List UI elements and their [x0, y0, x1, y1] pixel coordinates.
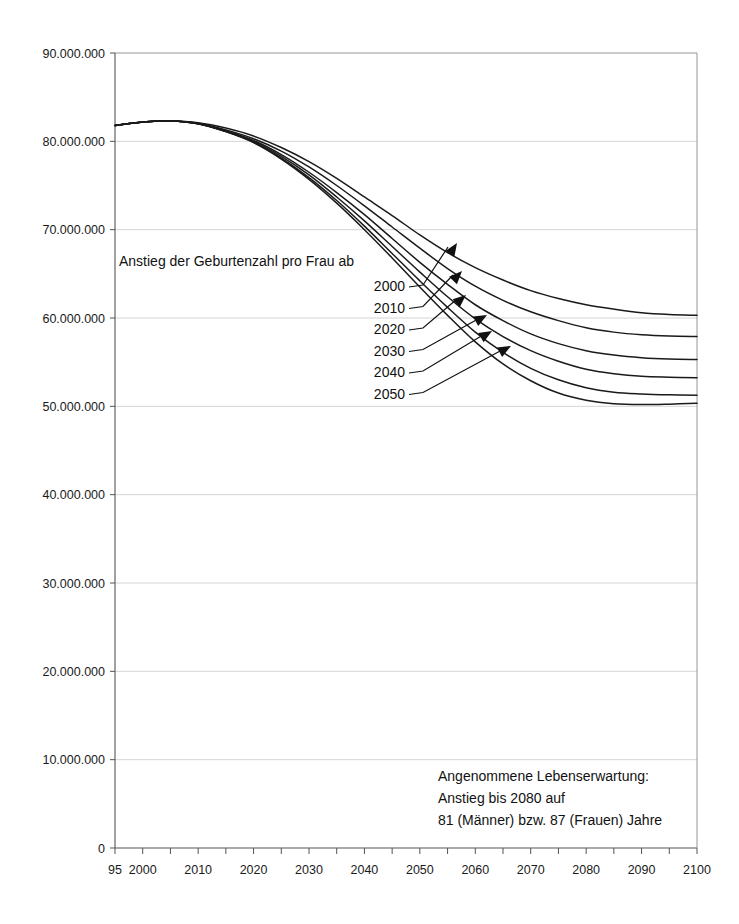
y-axis-tick-label: 40.000.000	[42, 488, 105, 502]
x-axis-tick-label: 2100	[683, 863, 711, 877]
x-axis-tick-label: 2000	[129, 863, 157, 877]
life-expectancy-line-1: Angenommene Lebenserwartung:	[438, 768, 649, 784]
x-axis-tick-label: 95	[108, 863, 122, 877]
series-label-2040: 2040	[374, 364, 405, 380]
y-axis-tick-label: 50.000.000	[42, 400, 105, 414]
series-label-2030: 2030	[374, 343, 405, 359]
x-axis-tick-label: 2050	[406, 863, 434, 877]
series-label-2020: 2020	[374, 321, 405, 337]
x-axis-tick-label: 2030	[295, 863, 323, 877]
series-label-2050: 2050	[374, 386, 405, 402]
chart-canvas: 010.000.00020.000.00030.000.00040.000.00…	[0, 0, 739, 924]
x-axis-tick-label: 2040	[351, 863, 379, 877]
x-axis-tick-label: 2070	[517, 863, 545, 877]
y-axis-tick-label: 90.000.000	[42, 47, 105, 61]
y-axis-tick-label: 60.000.000	[42, 312, 105, 326]
life-expectancy-line-2: Anstieg bis 2080 auf	[438, 790, 565, 806]
chart-background	[0, 0, 739, 924]
x-axis-tick-label: 2010	[184, 863, 212, 877]
y-axis-tick-label: 0	[98, 842, 105, 856]
series-label-2000: 2000	[374, 278, 405, 294]
y-axis-tick-label: 10.000.000	[42, 753, 105, 767]
x-axis-tick-label: 2090	[628, 863, 656, 877]
fertility-annotation-label: Anstieg der Geburtenzahl pro Frau ab	[119, 253, 354, 269]
y-axis-tick-label: 20.000.000	[42, 665, 105, 679]
x-axis-tick-label: 2020	[240, 863, 268, 877]
series-label-2010: 2010	[374, 300, 405, 316]
x-axis-tick-label: 2080	[572, 863, 600, 877]
life-expectancy-line-3: 81 (Männer) bzw. 87 (Frauen) Jahre	[438, 812, 662, 828]
y-axis-tick-label: 30.000.000	[42, 577, 105, 591]
y-axis-tick-label: 80.000.000	[42, 135, 105, 149]
population-projection-chart: 010.000.00020.000.00030.000.00040.000.00…	[0, 0, 739, 924]
x-axis-tick-label: 2060	[461, 863, 489, 877]
y-axis-tick-label: 70.000.000	[42, 223, 105, 237]
